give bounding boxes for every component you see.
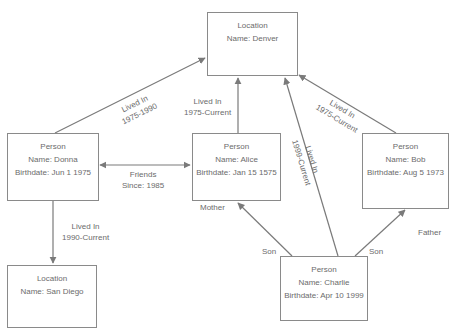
node-person-charlie[interactable]: Person Name: Charlie Birthdate: Apr 10 1… — [280, 256, 368, 321]
node-birthdate: Birthdate: Aug 5 1973 — [363, 166, 448, 179]
node-person-alice[interactable]: Person Name: Alice Birthdate: Jan 15 157… — [192, 133, 281, 201]
edge-label-alice-denver: Lived In 1975-Current — [184, 96, 231, 118]
edge-label-donna-sandiego: Lived In 1990-Current — [62, 221, 109, 243]
node-birthdate: Birthdate: Apr 10 1999 — [281, 289, 367, 302]
node-type: Location — [8, 272, 96, 285]
node-name: Name: Alice — [193, 153, 280, 166]
node-person-bob[interactable]: Person Name: Bob Birthdate: Aug 5 1973 — [362, 133, 449, 209]
node-type: Person — [8, 140, 98, 153]
node-name: Name: Bob — [363, 153, 448, 166]
role-label-father: Father — [418, 227, 441, 238]
node-name: Name: Donna — [8, 153, 98, 166]
node-name: Name: Denver — [208, 32, 297, 45]
node-location-sandiego[interactable]: Location Name: San Diego — [7, 265, 97, 328]
node-name: Name: Charlie — [281, 276, 367, 289]
node-name: Name: San Diego — [8, 285, 96, 298]
role-label-mother: Mother — [200, 202, 225, 213]
node-location-denver[interactable]: Location Name: Denver — [207, 12, 298, 76]
node-person-donna[interactable]: Person Name: Donna Birthdate: Jun 1 1975 — [7, 133, 99, 201]
role-label-son-right: Son — [369, 246, 383, 257]
node-type: Person — [193, 140, 280, 153]
edge-label-donna-alice: Friends Since: 1985 — [122, 169, 164, 191]
node-birthdate: Birthdate: Jun 1 1975 — [8, 166, 98, 179]
node-type: Person — [363, 140, 448, 153]
node-type: Person — [281, 263, 367, 276]
node-type: Location — [208, 19, 297, 32]
node-birthdate: Birthdate: Jan 15 1575 — [193, 166, 280, 179]
role-label-son-left: Son — [262, 246, 276, 257]
